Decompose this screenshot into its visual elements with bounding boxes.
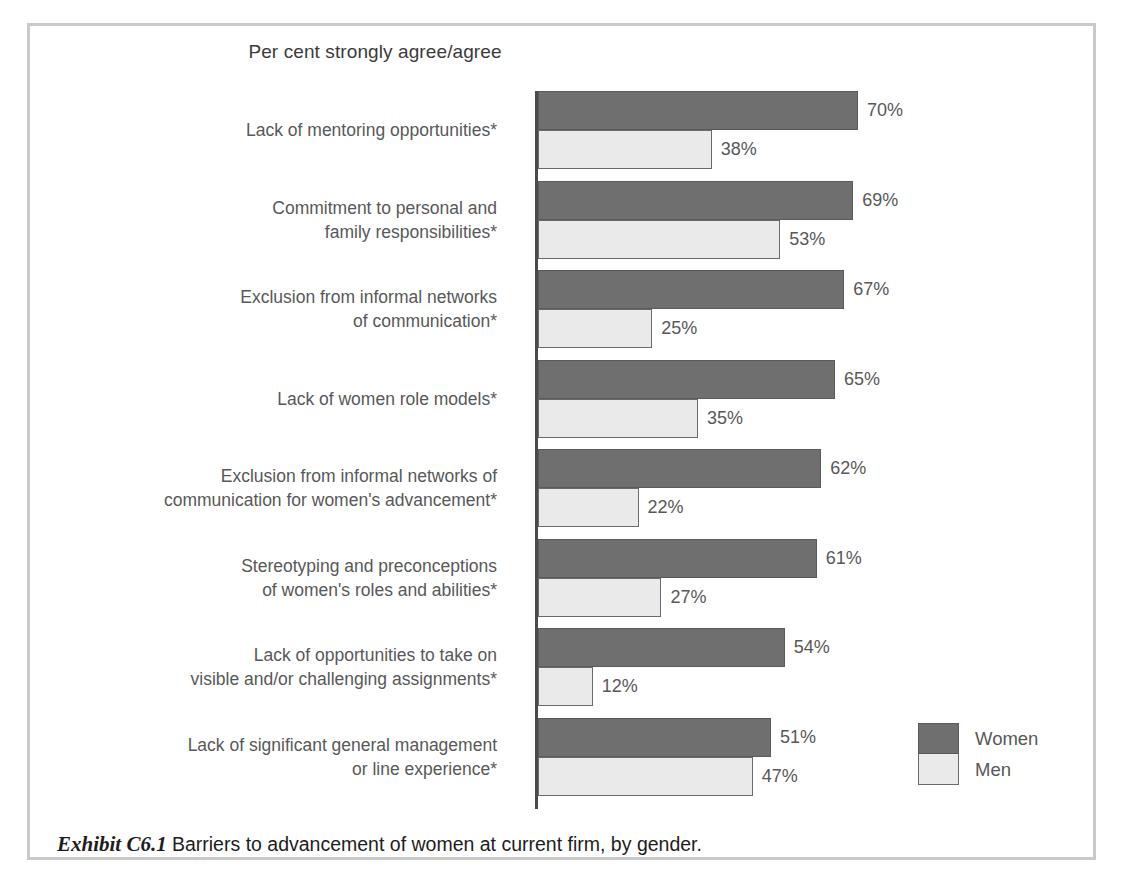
exhibit-figure: Per cent strongly agree/agree Lack of me… [27,23,1096,860]
bar-group: Commitment to personal and family respon… [30,181,1093,259]
bars: 65%35% [538,360,1098,438]
chart-legend: Women Men [918,723,1088,785]
bar-women [538,91,858,130]
bar-women [538,449,821,488]
legend-swatch-men-icon [918,754,959,785]
bar-group: Lack of opportunities to take on visible… [30,628,1093,706]
bars: 62%22% [538,449,1098,527]
category-label: Commitment to personal and family respon… [67,196,497,244]
value-label-men: 38% [721,130,757,169]
legend-label-men: Men [975,756,1011,783]
bars: 70%38% [538,91,1098,169]
bar-women [538,181,853,220]
legend-swatch-women-icon [918,723,959,754]
bar-group: Lack of mentoring opportunities*70%38% [30,91,1093,169]
bars: 69%53% [538,181,1098,259]
bars: 54%12% [538,628,1098,706]
bar-men [538,130,712,169]
bar-chart-plot-area: Lack of mentoring opportunities*70%38%Co… [30,86,1093,806]
value-label-women: 70% [867,91,903,130]
exhibit-number: Exhibit C6.1 [57,832,172,856]
caption-text: Barriers to advancement of women at curr… [172,833,702,855]
bar-men [538,667,593,706]
value-label-women: 65% [844,360,880,399]
value-label-men: 12% [602,667,638,706]
bar-women [538,718,771,757]
category-label: Lack of mentoring opportunities* [67,118,497,142]
value-label-men: 35% [707,399,743,438]
bar-group: Exclusion from informal networks of comm… [30,270,1093,348]
bar-group: Lack of women role models*65%35% [30,360,1093,438]
value-label-women: 51% [780,718,816,757]
bar-group: Exclusion from informal networks of comm… [30,449,1093,527]
bar-men [538,757,753,796]
bar-group: Stereotyping and preconceptions of women… [30,539,1093,617]
value-label-men: 47% [762,757,798,796]
category-label: Exclusion from informal networks of comm… [67,285,497,333]
value-label-men: 27% [670,578,706,617]
category-label: Stereotyping and preconceptions of women… [67,554,497,602]
value-label-men: 25% [661,309,697,348]
legend-item-women: Women [918,723,1088,754]
legend-item-men: Men [918,754,1088,785]
bars: 61%27% [538,539,1098,617]
bar-men [538,399,698,438]
bar-men [538,578,661,617]
category-label: Exclusion from informal networks of comm… [67,464,497,512]
value-label-women: 54% [794,628,830,667]
legend-label-women: Women [975,725,1038,752]
category-label: Lack of significant general management o… [67,733,497,781]
value-label-men: 22% [648,488,684,527]
figure-caption: Exhibit C6.1 Barriers to advancement of … [57,832,702,857]
bar-men [538,309,652,348]
chart-title: Per cent strongly agree/agree [30,41,720,63]
bars: 67%25% [538,270,1098,348]
value-label-women: 61% [826,539,862,578]
bar-women [538,270,844,309]
value-label-women: 62% [830,449,866,488]
value-label-men: 53% [789,220,825,259]
bar-women [538,539,817,578]
category-label: Lack of opportunities to take on visible… [67,643,497,691]
bar-women [538,628,785,667]
bar-women [538,360,835,399]
value-label-women: 67% [853,270,889,309]
bar-men [538,488,639,527]
value-label-women: 69% [862,181,898,220]
bar-men [538,220,780,259]
category-label: Lack of women role models* [67,387,497,411]
